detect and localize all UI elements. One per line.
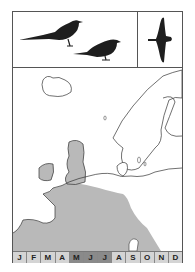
month-jul: J (98, 252, 112, 263)
short-tailed-bird-silhouette-icon (73, 39, 121, 57)
month-oct: O (141, 252, 155, 263)
month-aug: A (112, 252, 126, 263)
iceland-outline (42, 76, 71, 96)
month-jan: J (13, 252, 27, 263)
denmark-outline (117, 162, 128, 176)
great-britain-outline (65, 140, 85, 184)
silhouette-header (13, 12, 182, 68)
month-feb: F (27, 252, 41, 263)
month-nov: N (155, 252, 169, 263)
europe-range-map (13, 68, 182, 251)
month-may: M (70, 252, 84, 263)
ireland-outline (39, 164, 54, 181)
flight-silhouette-panel (138, 12, 182, 67)
month-dec: D (169, 252, 182, 263)
bird-in-flight-silhouette-icon (138, 12, 182, 67)
long-tailed-bird-silhouette-icon (13, 12, 137, 67)
range-map (13, 68, 182, 251)
month-apr: A (56, 252, 70, 263)
month-calendar-bar: J F M A M J J A S O N D (13, 251, 182, 263)
month-mar: M (41, 252, 55, 263)
month-sep: S (126, 252, 140, 263)
species-card: J F M A M J J A S O N D (12, 11, 183, 263)
perched-silhouettes-panel (13, 12, 138, 67)
month-jun: J (84, 252, 98, 263)
breeding-range-area (13, 182, 161, 251)
scandinavia-outline (113, 70, 182, 170)
